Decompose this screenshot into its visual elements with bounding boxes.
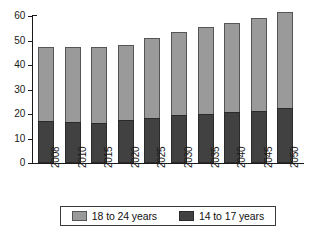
x-tick-label-2045: 2045: [263, 128, 274, 168]
y-tick-label-50: 50: [0, 36, 25, 46]
y-tick-label-60: 60: [0, 11, 25, 21]
x-tick-label-2010: 2010: [77, 128, 88, 168]
x-tick-label-2025: 2025: [156, 128, 167, 168]
bar-segment-18-to-24[interactable]: [144, 38, 160, 118]
y-tick-label-30: 30: [0, 85, 25, 95]
bar-segment-18-to-24[interactable]: [224, 23, 240, 112]
y-tick-label-10: 10: [0, 134, 25, 144]
y-tick-label-20: 20: [0, 109, 25, 119]
stacked-bar-chart: 0102030405060 20082010201520202025203020…: [0, 0, 313, 234]
bar-segment-18-to-24[interactable]: [251, 18, 267, 111]
x-tick-label-2020: 2020: [130, 128, 141, 168]
x-tick-label-2040: 2040: [236, 128, 247, 168]
x-tick-label-2008: 2008: [50, 128, 61, 168]
legend-label-18-to-24: 18 to 24 years: [92, 211, 157, 222]
bar-segment-18-to-24[interactable]: [277, 12, 293, 108]
x-tick-label-2015: 2015: [103, 128, 114, 168]
legend-swatch-icon-14-to-17: [179, 211, 194, 221]
y-tick-label-40: 40: [0, 60, 25, 70]
bar-segment-18-to-24[interactable]: [38, 47, 54, 121]
y-tick-0: [28, 163, 33, 164]
legend-swatch-icon-18-to-24: [72, 211, 87, 221]
y-tick-label-0: 0: [0, 158, 25, 168]
x-tick-label-2035: 2035: [210, 128, 221, 168]
x-tick-label-2030: 2030: [183, 128, 194, 168]
bar-segment-18-to-24[interactable]: [171, 32, 187, 115]
x-tick-label-2050: 2050: [289, 128, 300, 168]
legend-item-14-to-17: 14 to 17 years: [179, 211, 264, 222]
bar-segment-18-to-24[interactable]: [91, 47, 107, 123]
legend-item-18-to-24: 18 to 24 years: [72, 211, 157, 222]
bar-segment-18-to-24[interactable]: [198, 27, 214, 114]
chart-legend: 18 to 24 years 14 to 17 years: [60, 206, 276, 226]
legend-label-14-to-17: 14 to 17 years: [199, 211, 264, 222]
bar-segment-18-to-24[interactable]: [65, 47, 81, 122]
bar-segment-18-to-24[interactable]: [118, 45, 134, 120]
